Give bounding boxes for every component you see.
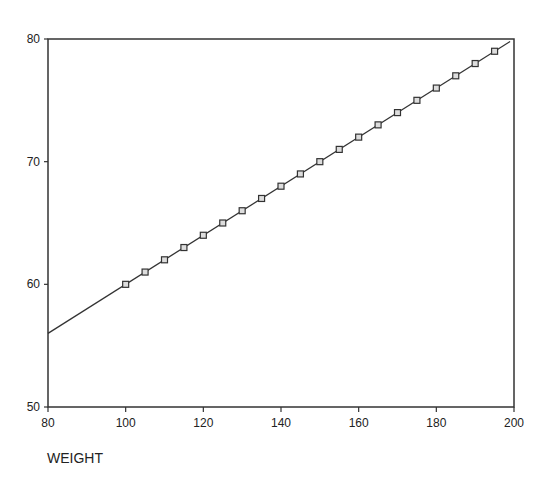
x-tick-label: 160: [349, 416, 369, 430]
data-point-marker: [142, 269, 148, 275]
data-point-marker: [375, 122, 381, 128]
x-tick-label: 80: [41, 416, 55, 430]
data-point-marker: [297, 171, 303, 177]
data-point-marker: [317, 159, 323, 165]
x-tick-label: 140: [271, 416, 291, 430]
y-tick-label: 70: [27, 155, 41, 169]
data-point-marker: [162, 257, 168, 263]
x-tick-label: 120: [193, 416, 213, 430]
data-point-marker: [200, 232, 206, 238]
y-tick-label: 60: [27, 277, 41, 291]
data-point-marker: [239, 208, 245, 214]
data-point-marker: [453, 73, 459, 79]
x-tick-label: 200: [504, 416, 524, 430]
data-point-marker: [414, 97, 420, 103]
chart-container: 8010012014016018020050607080 WEIGHT: [0, 0, 546, 484]
data-point-marker: [356, 134, 362, 140]
y-tick-label: 80: [27, 32, 41, 46]
line-chart: 8010012014016018020050607080: [0, 0, 546, 484]
data-point-marker: [492, 48, 498, 54]
data-point-marker: [472, 61, 478, 67]
x-axis-label: WEIGHT: [47, 450, 103, 466]
x-tick-label: 180: [426, 416, 446, 430]
data-point-marker: [220, 220, 226, 226]
x-tick-label: 100: [116, 416, 136, 430]
data-point-marker: [278, 183, 284, 189]
plot-frame: [48, 39, 514, 407]
data-point-marker: [336, 146, 342, 152]
data-point-marker: [259, 195, 265, 201]
data-point-marker: [123, 281, 129, 287]
y-tick-label: 50: [27, 400, 41, 414]
data-point-marker: [395, 110, 401, 116]
data-point-marker: [433, 85, 439, 91]
data-point-marker: [181, 245, 187, 251]
